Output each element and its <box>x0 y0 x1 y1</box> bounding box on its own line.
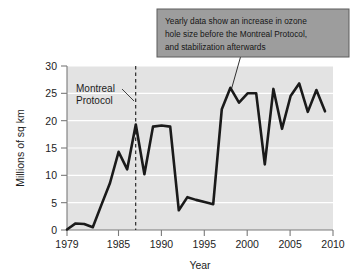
x-tick-label: 2010 <box>321 238 345 250</box>
montreal-protocol-label-line1: Montreal <box>76 83 115 94</box>
y-axis-tick-labels: 30 25 20 15 10 5 0 <box>45 60 57 236</box>
y-tick-label: 20 <box>45 115 57 127</box>
ozone-hole-size-chart: 30 25 20 15 10 5 0 1979 1985 1990 1995 2… <box>0 0 359 279</box>
y-tick-label: 15 <box>45 142 57 154</box>
montreal-protocol-label-line2: Protocol <box>76 95 113 106</box>
y-tick-label: 5 <box>51 197 57 209</box>
y-tick-label: 25 <box>45 87 57 99</box>
chart-svg: 30 25 20 15 10 5 0 1979 1985 1990 1995 2… <box>0 0 359 279</box>
x-tick-label: 1979 <box>55 238 79 250</box>
y-tick-label: 10 <box>45 169 57 181</box>
y-axis-ticks <box>61 66 67 230</box>
x-axis-ticks <box>67 230 333 236</box>
trend-callout-annotation: Yearly data show an increase in ozone ho… <box>157 9 349 57</box>
x-tick-label: 1995 <box>193 238 217 250</box>
callout-line-1: Yearly data show an increase in ozone <box>165 16 307 26</box>
y-tick-label: 30 <box>45 60 57 72</box>
x-tick-label: 1985 <box>107 238 131 250</box>
x-tick-label: 2005 <box>278 238 302 250</box>
callout-line-3: and stabilization afterwards <box>165 42 266 52</box>
x-axis-title: Year <box>189 259 211 271</box>
x-axis-tick-labels: 1979 1985 1990 1995 2000 2005 2010 <box>55 238 345 250</box>
x-tick-label: 1990 <box>150 238 174 250</box>
callout-line-2: hole size before the Montreal Protocol, <box>165 29 307 39</box>
y-axis-title: Millions of sq km <box>14 109 26 187</box>
x-tick-label: 2000 <box>236 238 260 250</box>
y-tick-label: 0 <box>51 224 57 236</box>
